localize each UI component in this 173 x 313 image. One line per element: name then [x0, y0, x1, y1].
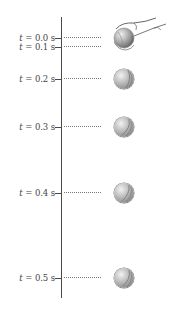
dotted-leader [64, 126, 101, 127]
time-label: t = 0.5 s [19, 273, 55, 283]
time-row-4: t = 0.4 s [0, 188, 173, 198]
ball-seam-icon [114, 268, 134, 288]
time-value: = 0.3 s [25, 122, 55, 132]
ball-t-0-5 [114, 268, 134, 288]
time-variable: t [19, 122, 22, 132]
time-label: t = 0.1 s [19, 42, 55, 52]
time-variable: t [19, 74, 22, 84]
tick-mark [55, 47, 62, 48]
time-row-5: t = 0.5 s [0, 273, 173, 283]
time-row-3: t = 0.3 s [0, 122, 173, 132]
time-axis-line [61, 17, 62, 298]
tick-mark [55, 79, 62, 80]
ball-seam-icon [114, 183, 134, 203]
ball-t-0-3 [114, 117, 134, 137]
time-value: = 0.4 s [25, 188, 55, 198]
tick-mark [55, 278, 62, 279]
time-variable: t [19, 188, 22, 198]
tick-mark [55, 127, 62, 128]
dotted-leader [64, 46, 101, 47]
time-variable: t [19, 273, 22, 283]
dotted-leader [64, 192, 101, 193]
ball-seam-icon [114, 69, 134, 89]
ball-t-0-2 [114, 69, 134, 89]
hand-releasing-ball-icon [108, 14, 172, 60]
dotted-leader [64, 78, 101, 79]
time-row-2: t = 0.2 s [0, 74, 173, 84]
time-label: t = 0.3 s [19, 122, 55, 132]
time-label: t = 0.4 s [19, 188, 55, 198]
time-label: t = 0.2 s [19, 74, 55, 84]
dotted-leader [64, 277, 101, 278]
time-value: = 0.1 s [25, 42, 55, 52]
tick-mark [55, 38, 62, 39]
ball-seam-icon [114, 117, 134, 137]
ball-t-0-4 [114, 183, 134, 203]
dotted-leader [64, 37, 101, 38]
time-variable: t [19, 42, 22, 52]
time-value: = 0.2 s [25, 74, 55, 84]
tick-mark [55, 193, 62, 194]
time-value: = 0.5 s [25, 273, 55, 283]
